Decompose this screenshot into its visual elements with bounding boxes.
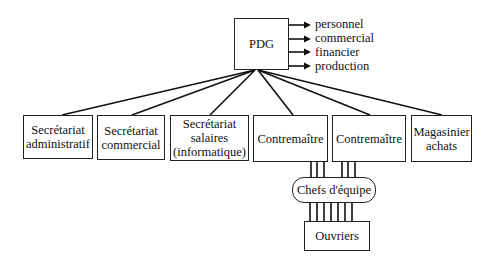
node-pdg: PDG xyxy=(234,18,289,70)
arrowhead-icon xyxy=(304,49,311,56)
node-secretariat-salaires: Secrétariat salaires (informatique) xyxy=(170,115,249,161)
node-secretariat-administratif: Secrétariat administratif xyxy=(23,115,93,159)
arrowhead-icon xyxy=(304,22,311,29)
node-contremaitre-2: Contremaître xyxy=(332,115,406,162)
function-label-personnel: personnel xyxy=(315,17,364,31)
edge-pdg-magasinier xyxy=(258,70,442,115)
node-ouvriers: Ouvriers xyxy=(304,221,370,251)
arrowhead-icon xyxy=(304,36,311,43)
node-chefs-equipe: Chefs d'équipe xyxy=(292,177,376,203)
node-label: Contremaître xyxy=(258,132,324,146)
function-label-commercial: commercial xyxy=(315,31,374,45)
node-contremaitre-1: Contremaître xyxy=(253,115,328,162)
node-label: Magasinier achats xyxy=(413,125,469,153)
node-label: Secrétariat administratif xyxy=(24,123,92,151)
edge-pdg-secretariat-admin xyxy=(62,70,255,115)
node-label: Contremaître xyxy=(336,132,402,146)
node-label: Chefs d'équipe xyxy=(297,183,371,197)
node-magasinier-achats: Magasinier achats xyxy=(411,115,472,162)
node-label: Secrétariat salaires (informatique) xyxy=(173,117,246,159)
node-secretariat-commercial: Secrétariat commercial xyxy=(97,115,165,160)
edge-pdg-secretariat-commercial xyxy=(132,70,255,115)
function-label-production: production xyxy=(315,59,369,73)
node-label: PDG xyxy=(249,37,274,51)
function-label-financier: financier xyxy=(315,45,359,59)
edge-pdg-secretariat-salaires xyxy=(210,70,255,115)
node-label: Secrétariat commercial xyxy=(98,124,164,152)
arrowhead-icon xyxy=(304,63,311,70)
node-label: Ouvriers xyxy=(315,229,359,243)
